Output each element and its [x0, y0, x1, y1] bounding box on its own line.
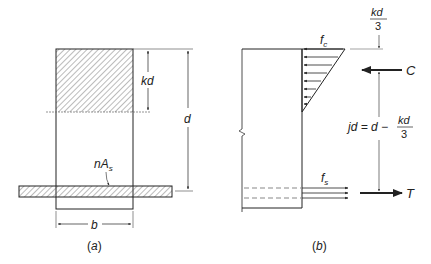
- beam-side-outline: [242, 49, 302, 208]
- nAs-leader-arrow: [106, 172, 109, 185]
- kd3-denominator: 3: [375, 20, 381, 32]
- nAs-label: nAs: [94, 157, 113, 173]
- compression-zone: [56, 49, 133, 112]
- panel-a-caption: (a): [87, 239, 102, 253]
- compression-stress-block: [302, 49, 345, 112]
- fs-label: fs: [321, 171, 328, 187]
- jd-fraction-denominator: 3: [401, 128, 407, 140]
- panel-a-cross-section: kd d nAs b (a): [19, 49, 193, 253]
- transformed-steel-strip: [19, 186, 172, 197]
- break-symbol: [239, 129, 245, 136]
- beam-stress-diagram: kd d nAs b (a): [0, 0, 431, 264]
- kd-label: kd: [141, 74, 154, 88]
- tension-stress-arrows: [302, 188, 348, 198]
- d-label: d: [184, 112, 191, 126]
- compression-stress-arrows: [304, 49, 343, 104]
- fc-label: fc: [320, 33, 327, 49]
- panel-b-caption: (b): [312, 239, 327, 253]
- jd-fraction-numerator: kd: [398, 114, 411, 126]
- C-label: C: [406, 63, 416, 78]
- panel-b-stress-diagram: fc fs kd 3 C jd = d − kd 3 T (b): [239, 6, 416, 253]
- T-label: T: [406, 186, 415, 201]
- b-label: b: [91, 218, 98, 232]
- kd3-numerator: kd: [371, 6, 384, 18]
- jd-equation-lhs: jd = d −: [346, 120, 388, 134]
